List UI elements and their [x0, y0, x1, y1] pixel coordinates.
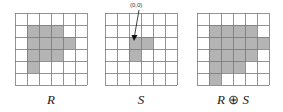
- filled-cell: [221, 61, 233, 73]
- filled-cell: [233, 49, 245, 61]
- filled-cell: [245, 49, 257, 61]
- filled-cell: [221, 49, 233, 61]
- filled-cell: [233, 25, 245, 37]
- caption-s: S: [105, 92, 177, 108]
- grid-dilation: [197, 13, 269, 85]
- caption-dilation: R ⊕ S: [197, 92, 269, 108]
- filled-cell: [233, 37, 245, 49]
- panel-dilation: R ⊕ S: [0, 0, 95, 112]
- filled-cell: [233, 61, 245, 73]
- filled-cell: [221, 37, 233, 49]
- filled-cell: [209, 37, 221, 49]
- caption-dilation-s: S: [242, 92, 249, 107]
- filled-cell: [209, 25, 221, 37]
- filled-cell: [245, 37, 257, 49]
- caption-dilation-r: R: [217, 92, 225, 107]
- filled-cell: [245, 25, 257, 37]
- filled-cell: [209, 61, 221, 73]
- dilation-operator: ⊕: [225, 92, 243, 107]
- filled-cell: [209, 73, 221, 85]
- filled-cell: [221, 25, 233, 37]
- filled-cell: [209, 49, 221, 61]
- filled-cell: [257, 37, 269, 49]
